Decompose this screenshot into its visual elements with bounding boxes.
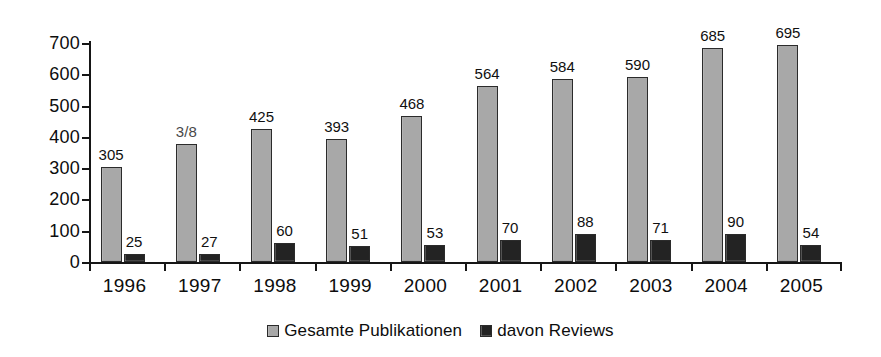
x-axis-category-label: 2000: [404, 276, 447, 295]
x-axis-tick: [315, 262, 317, 271]
bar-value-label: 564: [475, 66, 500, 81]
legend-swatch-total: [267, 325, 279, 337]
bar-value-label: 53: [427, 225, 444, 240]
bar-reviews-2000: [424, 245, 445, 262]
x-axis-tick: [691, 262, 693, 271]
bar-value-label: 468: [399, 96, 424, 111]
bar-value-label: 590: [625, 57, 650, 72]
bar-value-label: 393: [324, 119, 349, 134]
x-axis-category-label: 2002: [554, 276, 597, 295]
chart-legend: Gesamte Publikationendavon Reviews: [0, 322, 881, 339]
y-axis-tick-label: 0: [70, 253, 80, 271]
x-axis-tick: [540, 262, 542, 271]
y-axis-tick-label: 500: [49, 97, 80, 115]
bar-value-label: 70: [502, 220, 519, 235]
bar-reviews-1997: [199, 254, 220, 262]
legend-swatch-reviews: [480, 325, 492, 337]
y-axis-tick-label: 200: [49, 190, 80, 208]
x-axis-tick: [89, 262, 91, 271]
bar-reviews-1996: [124, 254, 145, 262]
bar-total-2000: [401, 116, 422, 262]
legend-item-total[interactable]: Gesamte Publikationen: [267, 322, 462, 339]
bar-total-1998: [251, 129, 272, 262]
y-axis-tick: [82, 137, 89, 139]
bar-value-label: 51: [351, 226, 368, 241]
bar-total-2001: [477, 86, 498, 262]
bar-value-label: 90: [727, 214, 744, 229]
x-axis-tick: [465, 262, 467, 271]
bar-value-label: 3/8: [176, 124, 197, 139]
bar-value-label: 27: [201, 234, 218, 249]
x-axis-category-label: 2003: [629, 276, 672, 295]
legend-item-reviews[interactable]: davon Reviews: [480, 322, 614, 339]
y-axis-tick-label: 100: [49, 222, 80, 240]
bar-total-1999: [326, 139, 347, 262]
bar-value-label: 685: [700, 28, 725, 43]
bar-reviews-2005: [800, 245, 821, 262]
bar-value-label: 60: [276, 223, 293, 238]
y-axis-tick-label: 600: [49, 65, 80, 83]
x-axis-category-label: 1998: [253, 276, 296, 295]
x-axis-tick: [239, 262, 241, 271]
bar-value-label: 305: [99, 147, 124, 162]
bar-value-label: 584: [550, 59, 575, 74]
y-axis-tick: [82, 262, 89, 264]
legend-label: Gesamte Publikationen: [284, 322, 462, 339]
x-axis-end-tick: [840, 262, 842, 271]
y-axis-tick: [82, 74, 89, 76]
bar-reviews-2001: [500, 240, 521, 262]
x-axis-tick: [615, 262, 617, 271]
y-axis-tick-label: 700: [49, 34, 80, 52]
bar-total-2004: [702, 48, 723, 262]
y-axis-tick: [82, 199, 89, 201]
x-axis-tick: [164, 262, 166, 271]
y-axis-tick-label: 400: [49, 128, 80, 146]
y-axis-tick: [82, 106, 89, 108]
bar-value-label: 71: [652, 220, 669, 235]
legend-label: davon Reviews: [497, 322, 614, 339]
bar-reviews-1999: [349, 246, 370, 262]
x-axis-category-label: 2001: [479, 276, 522, 295]
x-axis-category-label: 1999: [328, 276, 371, 295]
bar-chart: 0100200300400500600700 Gesamte Publikati…: [0, 0, 881, 357]
bar-total-2003: [627, 77, 648, 262]
x-axis-category-label: 2005: [780, 276, 823, 295]
bar-reviews-1998: [274, 243, 295, 262]
y-axis-tick: [82, 168, 89, 170]
x-axis-tick: [390, 262, 392, 271]
bar-total-2002: [552, 79, 573, 262]
bar-value-label: 25: [126, 234, 143, 249]
x-axis-category-label: 1997: [178, 276, 221, 295]
bar-total-1997: [176, 144, 197, 262]
bar-reviews-2003: [650, 240, 671, 262]
bar-value-label: 88: [577, 214, 594, 229]
x-axis-category-label: 2004: [704, 276, 747, 295]
y-axis-tick: [82, 43, 89, 45]
bar-total-2005: [777, 45, 798, 262]
bar-value-label: 695: [775, 25, 800, 40]
bar-value-label: 425: [249, 109, 274, 124]
bar-reviews-2002: [575, 234, 596, 262]
bar-total-1996: [101, 167, 122, 262]
x-axis-tick: [766, 262, 768, 271]
y-axis-tick-label: 300: [49, 159, 80, 177]
bar-reviews-2004: [725, 234, 746, 262]
y-axis-tick: [82, 231, 89, 233]
x-axis-category-label: 1996: [103, 276, 146, 295]
bar-value-label: 54: [803, 225, 820, 240]
